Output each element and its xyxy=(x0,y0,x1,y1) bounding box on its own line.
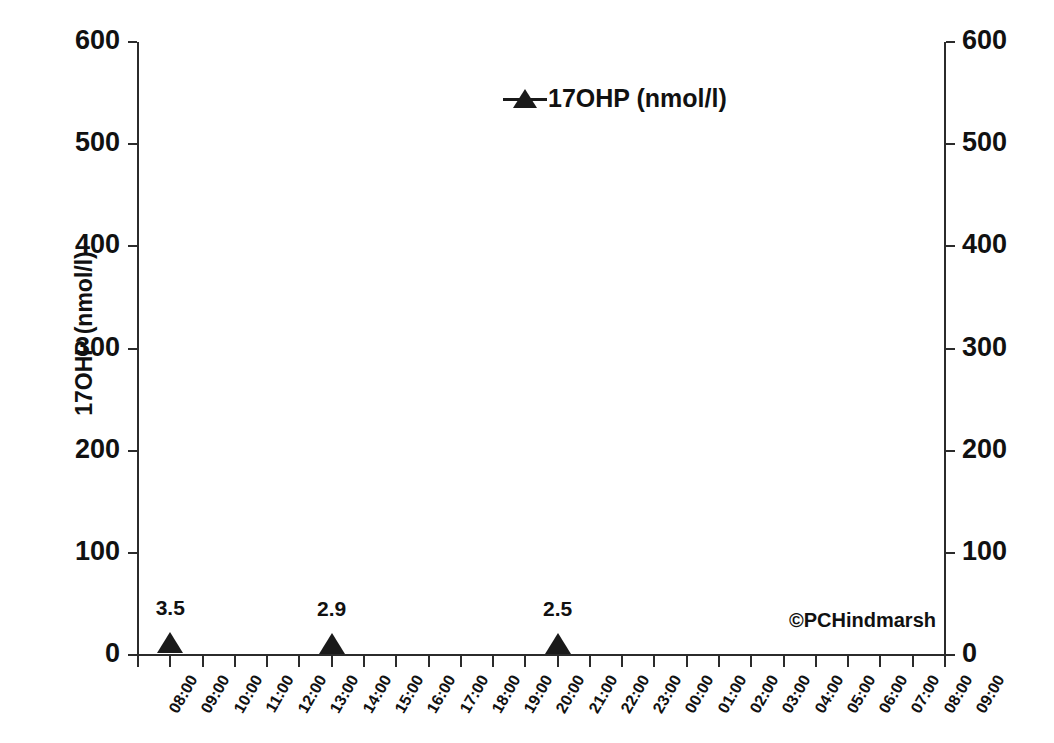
y-axis-right-tick xyxy=(946,654,955,656)
y-axis-right-tick-label: 0 xyxy=(962,640,977,667)
x-axis-tick-label: 22:00 xyxy=(617,672,653,716)
x-axis-tick-label: 06:00 xyxy=(876,672,912,716)
legend-triangle-marker-icon xyxy=(503,86,547,112)
x-axis-tick-label: 19:00 xyxy=(521,672,557,716)
x-axis-tick-label: 15:00 xyxy=(391,672,427,716)
y-axis-left-tick xyxy=(128,552,137,554)
chart-container: 17OHP (nmol/l) 0010010020020030030040040… xyxy=(0,0,1054,743)
y-axis-left-tick-label: 0 xyxy=(105,640,120,667)
y-axis-left-tick xyxy=(128,41,137,43)
data-point-value-label: 2.9 xyxy=(317,597,346,621)
x-axis-tick xyxy=(169,656,171,667)
x-axis-tick xyxy=(524,656,526,667)
x-axis-tick xyxy=(815,656,817,667)
y-axis-right-tick-label: 300 xyxy=(962,334,1007,361)
x-axis-tick xyxy=(686,656,688,667)
x-axis-tick xyxy=(460,656,462,667)
y-axis-left-tick-label: 400 xyxy=(75,231,120,258)
x-axis-tick xyxy=(783,656,785,667)
x-axis-tick-label: 23:00 xyxy=(650,672,686,716)
x-axis-tick-label: 07:00 xyxy=(908,672,944,716)
x-axis-line xyxy=(137,654,946,656)
x-axis-tick xyxy=(331,656,333,667)
chart-legend: 17OHP (nmol/l) xyxy=(503,84,727,113)
y-axis-right-tick xyxy=(946,348,955,350)
y-axis-left-tick xyxy=(128,245,137,247)
x-axis-tick xyxy=(557,656,559,667)
x-axis-tick-label: 00:00 xyxy=(682,672,718,716)
y-axis-right-tick xyxy=(946,143,955,145)
x-axis-tick-label: 09:00 xyxy=(198,672,234,716)
y-axis-left-tick-label: 500 xyxy=(75,129,120,156)
data-point-marker xyxy=(319,633,345,654)
y-axis-left-tick xyxy=(128,450,137,452)
y-axis-left-tick xyxy=(128,143,137,145)
y-axis-right-tick xyxy=(946,552,955,554)
x-axis-tick-label: 04:00 xyxy=(811,672,847,716)
y-axis-left-tick xyxy=(128,654,137,656)
x-axis-tick xyxy=(298,656,300,667)
y-axis-right-tick-label: 500 xyxy=(962,129,1007,156)
x-axis-tick xyxy=(750,656,752,667)
y-axis-left-tick-label: 300 xyxy=(75,334,120,361)
y-axis-right-tick-label: 100 xyxy=(962,538,1007,565)
x-axis-tick xyxy=(847,656,849,667)
x-axis-tick-label: 21:00 xyxy=(585,672,621,716)
x-axis-tick-label: 02:00 xyxy=(746,672,782,716)
x-axis-tick-label: 16:00 xyxy=(424,672,460,716)
data-point-value-label: 2.5 xyxy=(543,597,572,621)
x-axis-tick-label: 03:00 xyxy=(779,672,815,716)
x-axis-tick xyxy=(653,656,655,667)
x-axis-tick xyxy=(202,656,204,667)
x-axis-tick-label: 17:00 xyxy=(456,672,492,716)
x-axis-tick xyxy=(266,656,268,667)
data-point-marker xyxy=(545,633,571,654)
y-axis-left-tick-label: 100 xyxy=(75,538,120,565)
credit-text: ©PCHindmarsh xyxy=(789,609,936,632)
y-axis-right-tick xyxy=(946,450,955,452)
x-axis-tick xyxy=(137,656,139,667)
x-axis-tick-label: 01:00 xyxy=(714,672,750,716)
x-axis-tick-label: 13:00 xyxy=(327,672,363,716)
x-axis-tick-label: 05:00 xyxy=(843,672,879,716)
y-axis-left-tick xyxy=(128,348,137,350)
x-axis-tick xyxy=(492,656,494,667)
x-axis-tick-label: 09:00 xyxy=(972,672,1008,716)
x-axis-tick-label: 14:00 xyxy=(359,672,395,716)
x-axis-tick-label: 18:00 xyxy=(488,672,524,716)
x-axis-tick xyxy=(395,656,397,667)
x-axis-tick xyxy=(363,656,365,667)
x-axis-tick-label: 12:00 xyxy=(295,672,331,716)
data-point-value-label: 3.5 xyxy=(156,596,185,620)
y-axis-right-tick-label: 600 xyxy=(962,27,1007,54)
y-axis-right-tick-label: 200 xyxy=(962,436,1007,463)
x-axis-tick xyxy=(879,656,881,667)
y-axis-left-tick-label: 600 xyxy=(75,27,120,54)
x-axis-tick xyxy=(234,656,236,667)
y-axis-left-line xyxy=(137,42,139,656)
x-axis-tick-label: 10:00 xyxy=(230,672,266,716)
x-axis-tick xyxy=(944,656,946,667)
data-point-marker xyxy=(157,632,183,653)
x-axis-tick-label: 08:00 xyxy=(940,672,976,716)
y-axis-right-tick-label: 400 xyxy=(962,231,1007,258)
x-axis-tick-label: 20:00 xyxy=(553,672,589,716)
y-axis-right-tick xyxy=(946,41,955,43)
x-axis-tick xyxy=(621,656,623,667)
x-axis-tick xyxy=(912,656,914,667)
legend-item-label: 17OHP (nmol/l) xyxy=(548,84,727,113)
y-axis-left-tick-label: 200 xyxy=(75,436,120,463)
x-axis-tick xyxy=(428,656,430,667)
x-axis-tick-label: 11:00 xyxy=(262,672,298,716)
x-axis-tick xyxy=(718,656,720,667)
x-axis-tick xyxy=(589,656,591,667)
y-axis-right-tick xyxy=(946,245,955,247)
x-axis-tick-label: 08:00 xyxy=(165,672,201,716)
